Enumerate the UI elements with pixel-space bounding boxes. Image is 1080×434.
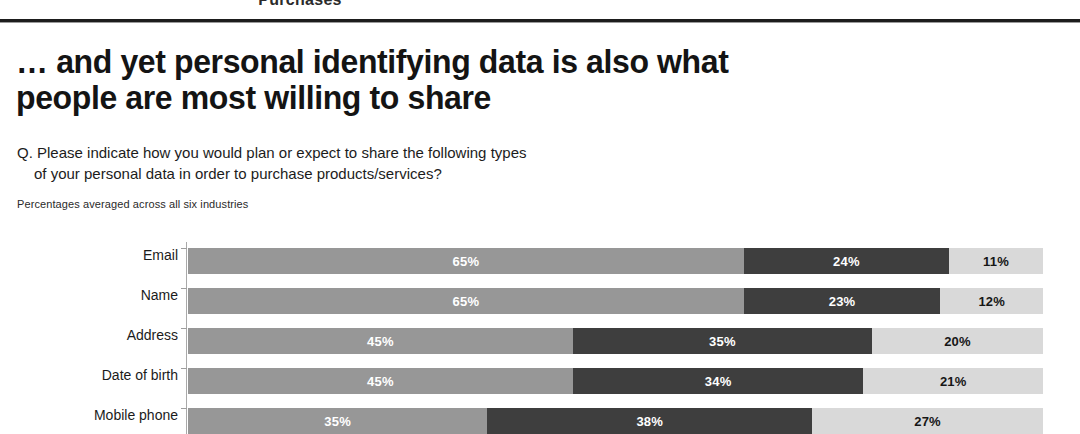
page-title-line-1: … and yet personal identifying data is a… bbox=[16, 44, 870, 80]
chart-row: Mobile phone 35% 38% 27% bbox=[0, 396, 1080, 434]
question-prefix: Q. bbox=[17, 144, 33, 161]
chart-row: Email 65% 24% 11% bbox=[0, 236, 1080, 276]
chart-row-label: Date of birth bbox=[0, 367, 178, 383]
chart-bar: 45% 35% 20% bbox=[188, 328, 1043, 354]
bar-segment-1: 65% bbox=[188, 288, 744, 314]
stacked-bar-chart: Email 65% 24% 11% Name 65% 23% 12% Addre… bbox=[0, 236, 1080, 434]
chart-row-label: Mobile phone bbox=[0, 407, 178, 423]
chart-row: Name 65% 23% 12% bbox=[0, 276, 1080, 316]
axis-tick bbox=[181, 408, 187, 409]
axis-tick bbox=[181, 288, 187, 289]
chart-bar: 45% 34% 21% bbox=[188, 368, 1043, 394]
chart-subnote: Percentages averaged across all six indu… bbox=[17, 198, 248, 210]
page-title-line-2: people are most willing to share bbox=[16, 80, 870, 116]
chart-row-label: Address bbox=[0, 327, 178, 343]
axis-tick bbox=[181, 328, 187, 329]
cut-off-header-fragment: Purchases bbox=[0, 0, 1080, 11]
bar-segment-1: 45% bbox=[188, 368, 573, 394]
axis-tick bbox=[181, 248, 187, 249]
bar-segment-2: 34% bbox=[573, 368, 864, 394]
page-title: … and yet personal identifying data is a… bbox=[16, 44, 870, 116]
cut-off-header-text: Purchases bbox=[258, 0, 342, 8]
header-divider-rule bbox=[0, 19, 1080, 22]
survey-question: Q. Please indicate how you would plan or… bbox=[17, 142, 717, 184]
bar-segment-2: 35% bbox=[573, 328, 872, 354]
chart-row: Address 45% 35% 20% bbox=[0, 316, 1080, 356]
bar-segment-3: 20% bbox=[872, 328, 1043, 354]
chart-bar: 65% 24% 11% bbox=[188, 248, 1043, 274]
chart-row-label: Name bbox=[0, 287, 178, 303]
bar-segment-2: 23% bbox=[744, 288, 941, 314]
chart-row-label: Email bbox=[0, 247, 178, 263]
axis-tick bbox=[181, 368, 187, 369]
bar-segment-3: 12% bbox=[940, 288, 1043, 314]
bar-segment-3: 21% bbox=[863, 368, 1043, 394]
bar-segment-3: 11% bbox=[949, 248, 1043, 274]
bar-segment-2: 24% bbox=[744, 248, 949, 274]
bar-segment-2: 38% bbox=[487, 408, 812, 434]
chart-bar: 35% 38% 27% bbox=[188, 408, 1043, 434]
bar-segment-1: 35% bbox=[188, 408, 487, 434]
chart-row: Date of birth 45% 34% 21% bbox=[0, 356, 1080, 396]
question-line-1: Please indicate how you would plan or ex… bbox=[37, 144, 526, 161]
bar-segment-1: 65% bbox=[188, 248, 744, 274]
bar-segment-3: 27% bbox=[812, 408, 1043, 434]
chart-bar: 65% 23% 12% bbox=[188, 288, 1043, 314]
bar-segment-1: 45% bbox=[188, 328, 573, 354]
question-line-2: of your personal data in order to purcha… bbox=[17, 163, 717, 184]
